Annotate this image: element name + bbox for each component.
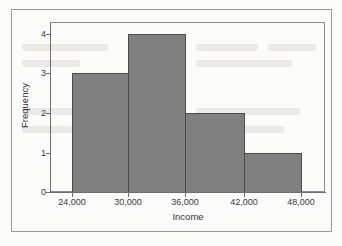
x-tick-label-48000: 48,000 (275, 197, 327, 208)
y-tick-3 (46, 73, 50, 74)
y-tick-4 (46, 34, 50, 35)
y-tick-label-0: 0 (26, 187, 46, 197)
scanned-page: 4 3 2 1 0 24,000 30,000 36,000 42,000 48… (0, 0, 342, 246)
histogram-bar-4[interactable] (244, 153, 302, 193)
y-axis-title: Frequency (19, 58, 30, 154)
x-tick-label-24000: 24,000 (46, 197, 98, 208)
x-tick-label-30000: 30,000 (102, 197, 154, 208)
y-axis-line (50, 22, 51, 193)
x-axis-line (50, 192, 326, 193)
bar-series (0, 0, 342, 246)
histogram-bar-1[interactable] (72, 73, 129, 193)
y-tick-1 (46, 153, 50, 154)
y-tick-2 (46, 113, 50, 114)
x-tick-label-42000: 42,000 (218, 197, 270, 208)
histogram-bar-2[interactable] (128, 34, 186, 193)
x-tick-label-36000: 36,000 (159, 197, 211, 208)
x-axis-title: Income (50, 211, 326, 222)
y-tick-label-4: 4 (26, 29, 46, 39)
y-tick-0 (46, 192, 50, 193)
histogram-bar-3[interactable] (185, 113, 245, 193)
